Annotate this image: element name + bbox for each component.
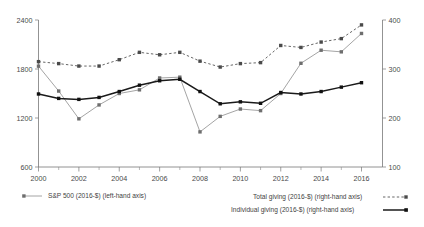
data-point-marker xyxy=(218,65,221,68)
data-point-marker xyxy=(77,64,80,67)
data-point-marker xyxy=(57,89,60,92)
data-point-marker xyxy=(360,23,363,26)
data-point-marker xyxy=(299,92,302,95)
data-point-marker xyxy=(37,60,40,63)
x-axis-tick-label: 2010 xyxy=(232,174,248,183)
data-point-marker xyxy=(118,58,121,61)
data-point-marker xyxy=(340,50,343,53)
data-point-marker xyxy=(259,102,262,105)
data-point-marker xyxy=(360,81,363,84)
x-axis-tick-label: 2000 xyxy=(31,174,47,183)
data-point-marker xyxy=(239,107,242,110)
x-axis-tick-label: 2012 xyxy=(273,174,289,183)
data-point-marker xyxy=(360,32,363,35)
legend-item-individual-giving[interactable]: Individual giving (2016-$) (right-hand a… xyxy=(231,206,408,214)
data-point-marker xyxy=(259,109,262,112)
right-axis-tick-label: 100 xyxy=(389,163,401,172)
data-point-marker xyxy=(198,59,201,62)
data-point-marker xyxy=(198,90,201,93)
data-point-marker xyxy=(218,102,221,105)
series-1 xyxy=(37,32,363,134)
series-2 xyxy=(37,23,363,69)
data-point-marker xyxy=(37,64,40,67)
data-point-marker xyxy=(97,103,100,106)
legend-label-total-giving: Total giving (2016-$) (right-hand axis) xyxy=(253,193,362,201)
data-point-marker xyxy=(138,83,141,86)
data-point-marker xyxy=(178,78,181,81)
legend-marker-swatch xyxy=(22,194,25,197)
data-point-marker xyxy=(319,40,322,43)
data-point-marker xyxy=(198,130,201,133)
legend-marker-swatch xyxy=(404,195,407,198)
legend-label-individual-giving: Individual giving (2016-$) (right-hand a… xyxy=(231,206,354,214)
right-axis-tick-label: 400 xyxy=(389,16,401,25)
left-axis-tick-label: 2400 xyxy=(17,16,33,25)
left-axis-tick-label: 600 xyxy=(21,163,33,172)
data-point-marker xyxy=(178,51,181,54)
data-point-marker xyxy=(77,98,80,101)
data-point-marker xyxy=(97,64,100,67)
data-point-marker xyxy=(158,53,161,56)
data-point-marker xyxy=(239,62,242,65)
series-line xyxy=(39,33,362,131)
chart-legend: S&P 500 (2016-$) (left-hand axis)Total g… xyxy=(22,192,408,214)
chart-container: 600120018002400 100200300400 20002002200… xyxy=(0,0,424,227)
data-point-marker xyxy=(118,90,121,93)
data-point-marker xyxy=(279,44,282,47)
legend-label-sp500: S&P 500 (2016-$) (left-hand axis) xyxy=(48,192,146,200)
data-point-marker xyxy=(239,100,242,103)
data-point-marker xyxy=(340,85,343,88)
legend-item-sp500[interactable]: S&P 500 (2016-$) (left-hand axis) xyxy=(22,192,146,200)
data-point-marker xyxy=(97,96,100,99)
data-point-marker xyxy=(259,61,262,64)
left-axis-tick-label: 1200 xyxy=(17,114,33,123)
data-point-marker xyxy=(299,46,302,49)
data-point-marker xyxy=(158,79,161,82)
left-axis-tick-label: 1800 xyxy=(17,65,33,74)
x-axis: 200020022004200620082010201220142016 xyxy=(31,167,383,183)
x-axis-tick-label: 2014 xyxy=(313,174,329,183)
x-axis-tick-label: 2008 xyxy=(192,174,208,183)
data-point-marker xyxy=(57,62,60,65)
data-point-marker xyxy=(319,49,322,52)
line-chart: 600120018002400 100200300400 20002002200… xyxy=(0,0,424,227)
data-point-marker xyxy=(319,90,322,93)
x-axis-tick-label: 2006 xyxy=(152,174,168,183)
right-axis-tick-label: 300 xyxy=(389,65,401,74)
x-axis-tick-label: 2016 xyxy=(354,174,370,183)
data-point-marker xyxy=(138,88,141,91)
data-point-marker xyxy=(77,117,80,120)
right-axis: 100200300400 xyxy=(383,16,401,172)
series-3 xyxy=(37,78,363,106)
x-axis-tick-label: 2002 xyxy=(71,174,87,183)
series-lines xyxy=(37,23,363,133)
data-point-marker xyxy=(299,62,302,65)
data-point-marker xyxy=(57,97,60,100)
left-axis: 600120018002400 xyxy=(17,16,39,172)
data-point-marker xyxy=(340,37,343,40)
data-point-marker xyxy=(37,92,40,95)
legend-marker-swatch xyxy=(404,208,408,212)
right-axis-tick-label: 200 xyxy=(389,114,401,123)
data-point-marker xyxy=(138,51,141,54)
data-point-marker xyxy=(218,115,221,118)
data-point-marker xyxy=(279,91,282,94)
x-axis-tick-label: 2004 xyxy=(111,174,127,183)
legend-item-total-giving[interactable]: Total giving (2016-$) (right-hand axis) xyxy=(253,193,408,201)
